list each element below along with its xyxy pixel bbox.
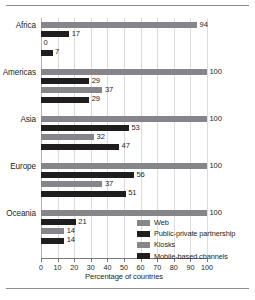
bar-row: 51 [41,191,207,197]
x-axis-tick-label: 10 [54,263,62,272]
x-axis-tick-label: 60 [137,263,145,272]
x-axis-tick-label: 70 [153,263,161,272]
bar [41,219,76,225]
bar-row: 37 [41,181,207,187]
legend-label: Public-private partnership [154,229,235,238]
bar [41,144,119,150]
legend-label: Mobile-based channels [154,252,228,261]
bar-row: 29 [41,78,207,84]
top-rule [6,5,249,6]
bar [41,238,64,244]
bar [41,69,207,75]
bar-row: 47 [41,144,207,150]
x-axis-tick [41,259,42,262]
bar-value-label: 100 [210,161,222,170]
chart-figure: Africa941707Americas100293729Asia1005332… [0,0,255,300]
bar-row: 94 [41,22,207,28]
bar [41,210,207,216]
bar-row: 17 [41,31,207,37]
legend-item: Web [137,218,235,227]
bar-value-label: 100 [210,208,222,217]
bar-value-label: 47 [122,141,130,150]
legend-label: Kiosks [154,240,175,249]
bar-value-label: 0 [44,38,48,47]
x-axis-tick-label: 50 [120,263,128,272]
legend-item: Kiosks [137,240,235,249]
bar [41,31,69,37]
bar [41,191,126,197]
category-label-americas: Americas [3,68,36,77]
bar [41,172,134,178]
bar-value-label: 56 [136,170,144,179]
bar-value-label: 37 [105,85,113,94]
bar-value-label: 100 [210,114,222,123]
bar-row: 37 [41,87,207,93]
legend-swatch [137,220,150,226]
bar-row: 100 [41,116,207,122]
bar-value-label: 53 [131,123,139,132]
bar [41,116,207,122]
bar-value-label: 94 [200,20,208,29]
bar [41,228,64,234]
bar [41,50,53,56]
bar-group: Americas100293729 [41,69,207,109]
x-axis-tick-label: 90 [186,263,194,272]
bar-value-label: 29 [92,76,100,85]
bar-value-label: 37 [105,179,113,188]
bar-row: 29 [41,97,207,103]
bar-row: 100 [41,69,207,75]
category-label-europe: Europe [10,162,36,171]
bar-group: Africa941707 [41,22,207,62]
bar-row: 56 [41,172,207,178]
x-axis-tick-label: 30 [87,263,95,272]
bar-value-label: 7 [55,47,59,56]
x-axis-tick-label: 40 [103,263,111,272]
legend-label: Web [154,218,169,227]
bar-group: Asia100533247 [41,116,207,156]
bar-value-label: 29 [92,94,100,103]
x-axis-tick [74,259,75,262]
bar-value-label: 14 [67,226,75,235]
bar-row: 32 [41,134,207,140]
bar [41,125,129,131]
x-axis-tick [107,259,108,262]
bar-row: 100 [41,210,207,216]
x-axis-tick-label: 80 [170,263,178,272]
bar [41,134,94,140]
category-label-asia: Asia [20,115,36,124]
bar [41,87,102,93]
bar-row: 53 [41,125,207,131]
legend-item: Public-private partnership [137,229,235,238]
legend-item: Mobile-based channels [137,252,235,261]
x-axis-tick [58,259,59,262]
bar-group: Europe100563751 [41,163,207,203]
bar-value-label: 32 [97,132,105,141]
x-axis-tick-label: 0 [39,263,43,272]
legend-swatch [137,253,150,259]
bar-value-label: 14 [67,235,75,244]
bar [41,78,89,84]
chart-legend: WebPublic-private partnershipKiosksMobil… [137,218,235,261]
bar-value-label: 21 [78,217,86,226]
bar-value-label: 51 [128,188,136,197]
bar-value-label: 100 [210,67,222,76]
bar [41,181,102,187]
bar [41,97,89,103]
bar-row: 100 [41,163,207,169]
legend-swatch [137,242,150,248]
bar-value-label: 17 [72,29,80,38]
bar [41,22,197,28]
category-label-africa: Africa [16,21,36,30]
bar-row: 0 [41,40,207,46]
category-label-oceania: Oceania [6,209,36,218]
bar [41,163,207,169]
legend-swatch [137,231,150,237]
x-axis-tick-label: 100 [201,263,213,272]
bar-row: 7 [41,50,207,56]
x-axis-tick [124,259,125,262]
x-axis-title: Percentage of countries [41,272,207,281]
x-axis-tick [91,259,92,262]
x-axis-tick-label: 20 [70,263,78,272]
bottom-rule [6,288,249,289]
